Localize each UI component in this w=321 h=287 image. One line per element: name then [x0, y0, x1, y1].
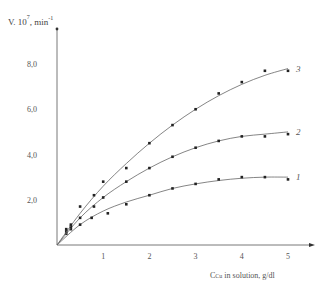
data-point — [102, 196, 105, 199]
y-tick-label: 6,0 — [27, 105, 37, 114]
data-point — [79, 205, 82, 208]
y-label-unit: , min — [30, 17, 49, 27]
y-label-unit-exp: -1 — [48, 15, 53, 21]
data-point — [287, 69, 290, 72]
curve-number-label: 2 — [296, 127, 301, 137]
data-point — [93, 205, 96, 208]
x-tick-label: 1 — [101, 252, 105, 261]
data-point — [264, 135, 267, 138]
y-tick-label: 8,0 — [27, 60, 37, 69]
y-label-main: V. 10 — [8, 17, 27, 27]
data-point — [194, 146, 197, 149]
x-label-rest: in solution, g/dl — [222, 271, 275, 280]
data-point — [194, 108, 197, 111]
data-point — [125, 203, 128, 206]
data-point — [241, 135, 244, 138]
y-tick-labels: 2,04,06,08,0 — [27, 60, 37, 205]
data-point — [171, 187, 174, 190]
data-point — [90, 217, 93, 220]
y-tick-label: 4,0 — [27, 151, 37, 160]
data-point — [70, 223, 73, 226]
series-1: 1 — [57, 172, 301, 245]
x-axis-label: CCu in solution, g/dl — [210, 271, 276, 280]
data-point — [217, 140, 220, 143]
data-point — [171, 124, 174, 127]
data-point — [241, 81, 244, 84]
data-point — [264, 69, 267, 72]
x-tick-label: 2 — [147, 252, 151, 261]
chart-canvas: V. 107, min-1 CCu in solution, g/dl 2,04… — [0, 0, 321, 287]
data-point — [79, 217, 82, 220]
x-label-sub: Cu — [215, 273, 222, 279]
data-point — [148, 194, 151, 197]
data-point — [107, 212, 110, 215]
x-axis-arrow-icon — [309, 243, 315, 247]
data-point — [93, 194, 96, 197]
data-point — [194, 183, 197, 186]
data-point — [102, 180, 105, 183]
x-tick-label: 4 — [240, 252, 244, 261]
data-point — [217, 178, 220, 181]
data-point — [264, 176, 267, 179]
data-point — [171, 155, 174, 158]
y-axis-arrow-icon — [56, 28, 59, 31]
data-point — [287, 133, 290, 136]
data-point — [125, 180, 128, 183]
data-point — [217, 92, 220, 95]
x-tick-label: 5 — [286, 252, 290, 261]
curve-number-label: 1 — [296, 172, 301, 182]
y-tick-label: 2,0 — [27, 196, 37, 205]
x-tick-labels: 12345 — [101, 252, 290, 261]
data-point — [125, 167, 128, 170]
data-point — [241, 176, 244, 179]
data-point — [148, 142, 151, 145]
data-point — [65, 228, 68, 231]
data-point — [148, 167, 151, 170]
series-group: 123 — [57, 64, 301, 245]
series-2: 2 — [57, 127, 301, 245]
x-tick-label: 3 — [194, 252, 198, 261]
curve-number-label: 3 — [295, 64, 301, 74]
data-point — [79, 223, 82, 226]
data-point — [287, 178, 290, 181]
y-axis-label: V. 107, min-1 — [8, 14, 53, 27]
